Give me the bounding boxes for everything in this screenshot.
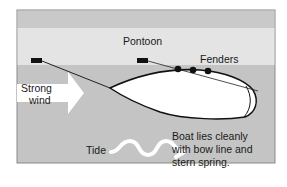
top-band bbox=[18, 11, 275, 29]
pontoon-label: Pontoon bbox=[123, 35, 162, 47]
bow-cleat bbox=[31, 58, 42, 63]
mooring-diagram: Pontoon Fenders Strong wind Tide Boat li… bbox=[0, 0, 287, 187]
fender bbox=[175, 66, 182, 73]
fenders-label: Fenders bbox=[200, 53, 239, 65]
tide-label: Tide bbox=[86, 144, 106, 156]
caption-line1: Boat lies cleanly bbox=[172, 130, 249, 142]
caption-line2: with bow line and bbox=[171, 143, 253, 155]
caption-line3: stern spring. bbox=[172, 156, 230, 168]
fender bbox=[190, 67, 197, 74]
wind-label-line2: wind bbox=[28, 94, 51, 106]
wind-label-line1: Strong bbox=[21, 82, 52, 94]
fender bbox=[205, 68, 212, 75]
stern-cleat bbox=[137, 58, 148, 63]
